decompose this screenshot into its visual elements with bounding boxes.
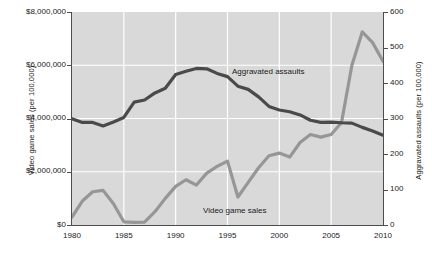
- x-axis-tick-label: 1995: [208, 231, 248, 240]
- x-axis-line: [71, 225, 384, 226]
- y-axis-right-tick-label: 600: [390, 7, 432, 16]
- y-axis-right-tick-label: 200: [390, 149, 432, 158]
- plot-area: [72, 12, 383, 225]
- y-axis-right-tick-label: 300: [390, 113, 432, 122]
- chart-container: Video game sales (per 100,000) Aggravate…: [0, 0, 432, 259]
- y-axis-right-tick-label: 500: [390, 42, 432, 51]
- x-axis-tick-label: 1985: [104, 231, 144, 240]
- y-axis-left-tick-label: $6,000,000: [4, 60, 66, 69]
- axis-end-cap: [383, 225, 388, 226]
- x-axis-tick-label: 1990: [156, 231, 196, 240]
- y-axis-right-tickmark: [383, 190, 388, 191]
- y-axis-right-tickmark: [383, 83, 388, 84]
- y-axis-right-tickmark: [383, 48, 388, 49]
- series-label-aggravated-assaults: Aggravated assaults: [232, 67, 305, 76]
- plot-svg: [72, 12, 383, 225]
- y-axis-left-tick-label: $8,000,000: [4, 7, 66, 16]
- x-axis-tick-label: 2010: [363, 231, 403, 240]
- axis-end-cap: [67, 12, 72, 13]
- axis-end-cap: [67, 225, 72, 226]
- y-axis-left-tickmark: [67, 65, 72, 66]
- y-axis-left-tick-label: $0: [4, 220, 66, 229]
- y-axis-right-tickmark: [383, 119, 388, 120]
- y-axis-left-tickmark: [67, 172, 72, 173]
- y-axis-right-tick-label: 0: [390, 220, 432, 229]
- y-axis-right-tick-label: 400: [390, 78, 432, 87]
- axis-end-cap: [383, 12, 388, 13]
- y-axis-left-tick-label: $4,000,000: [4, 113, 66, 122]
- x-axis-tick-label: 2000: [259, 231, 299, 240]
- y-axis-left-tick-label: $2,000,000: [4, 166, 66, 175]
- series-label-video-game-sales: Video game sales: [203, 206, 266, 215]
- y-axis-right-tick-label: 100: [390, 184, 432, 193]
- y-axis-left-tickmark: [67, 119, 72, 120]
- y-axis-right-tickmark: [383, 154, 388, 155]
- x-axis-tick-label: 2005: [311, 231, 351, 240]
- x-axis-tick-label: 1980: [52, 231, 92, 240]
